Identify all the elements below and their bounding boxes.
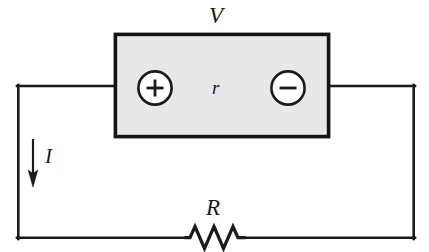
current-arrow-icon xyxy=(28,139,38,187)
circuit-diagram-figure: V r I R xyxy=(0,0,429,252)
resistance-label: R xyxy=(206,196,220,219)
current-label: I xyxy=(45,146,52,167)
voltage-label: V xyxy=(209,4,223,27)
internal-resistance-label: r xyxy=(212,78,219,97)
resistor-zigzag-icon xyxy=(186,227,244,249)
